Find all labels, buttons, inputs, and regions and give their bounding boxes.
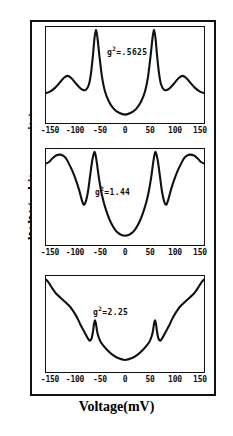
x-tick-label: 150 xyxy=(193,375,207,384)
plot-panel-1: g2=.5625 xyxy=(45,26,205,124)
panel-2-plot-area xyxy=(45,148,205,246)
plot-panel-3: g2=2.25 xyxy=(45,275,205,373)
panel-2-x-tick-labels: -150-100-50050100150 xyxy=(45,248,205,261)
panel-2-annotation-exponent: 2 xyxy=(100,185,104,192)
x-tick-label: 0 xyxy=(123,248,128,257)
panel-3-curve xyxy=(45,279,205,360)
x-tick-label: 100 xyxy=(168,248,182,257)
panel-3-annotation: g2=2.25 xyxy=(93,308,128,317)
x-tick-label: 150 xyxy=(193,248,207,257)
panel-2-annotation: g2=1.44 xyxy=(95,188,130,197)
panel-3-x-tick-labels: -150-100-50050100150 xyxy=(45,375,205,388)
x-tick-label: -50 xyxy=(93,126,107,135)
x-tick-label: -100 xyxy=(66,126,84,135)
panel-1-annotation-value: .5625 xyxy=(121,48,147,57)
x-tick-label: -50 xyxy=(93,248,107,257)
x-tick-label: 50 xyxy=(145,248,154,257)
x-tick-label: 0 xyxy=(123,126,128,135)
panel-1-plot-area xyxy=(45,26,205,124)
panel-1-annotation-exponent: 2 xyxy=(112,45,116,52)
x-tick-label: -100 xyxy=(66,248,84,257)
x-tick-label: -150 xyxy=(41,375,59,384)
figure-root: dI/dV (arbitrary units) g2=.5625 -150-10… xyxy=(0,0,233,436)
panel-1-x-tick-labels: -150-100-50050100150 xyxy=(45,126,205,139)
x-tick-label: -150 xyxy=(41,248,59,257)
panel-3-plot-area xyxy=(45,275,205,373)
x-tick-label: 100 xyxy=(168,375,182,384)
x-tick-label: 0 xyxy=(123,375,128,384)
panel-3-annotation-value: 2.25 xyxy=(107,308,128,317)
x-tick-label: -50 xyxy=(93,375,107,384)
panel-1-curve xyxy=(45,30,205,115)
plot-panel-2: g2=1.44 xyxy=(45,148,205,246)
x-tick-label: -150 xyxy=(41,126,59,135)
x-tick-label: 50 xyxy=(145,126,154,135)
x-tick-label: 50 xyxy=(145,375,154,384)
x-tick-label: 100 xyxy=(168,126,182,135)
x-tick-label: 150 xyxy=(193,126,207,135)
x-tick-label: -100 xyxy=(66,375,84,384)
panel-3-annotation-exponent: 2 xyxy=(98,305,102,312)
x-axis-label: Voltage(mV) xyxy=(0,399,233,415)
panel-1-annotation: g2=.5625 xyxy=(107,48,148,57)
panel-2-annotation-value: 1.44 xyxy=(109,188,130,197)
